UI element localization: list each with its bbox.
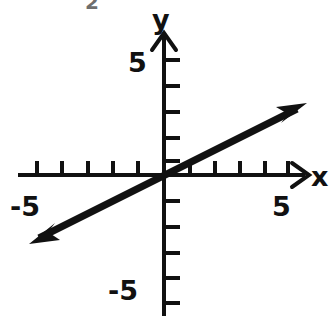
x-tick-label-negative-5: -5 (10, 191, 40, 222)
x-axis-ticks-negative (37, 161, 138, 175)
graph-svg: 2 x -5 5 (0, 0, 335, 318)
scan-artifact-text: 2 (85, 0, 99, 14)
x-axis-label: x (311, 161, 328, 192)
x-axis-ticks-positive (190, 161, 288, 175)
y-tick-label-negative-5: -5 (108, 275, 138, 306)
y-axis-ticks-negative (164, 201, 180, 303)
y-axis-ticks-positive (164, 60, 180, 161)
y-axis: y 5 -5 (108, 4, 180, 316)
y-axis-label: y (152, 4, 170, 35)
coordinate-graph-figure: 2 x -5 5 (0, 0, 335, 318)
y-tick-label-positive-5: 5 (128, 47, 147, 78)
x-tick-label-positive-5: 5 (272, 191, 291, 222)
